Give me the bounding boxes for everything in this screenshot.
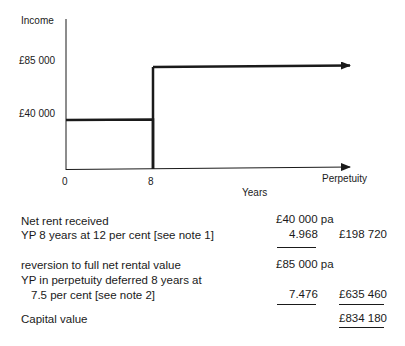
x-axis-label: Years	[242, 187, 267, 198]
y-axis-label: Income	[21, 15, 54, 26]
x-axis	[66, 167, 350, 170]
row-label: Net rent received	[21, 215, 109, 227]
row-label: Capital value	[21, 313, 87, 325]
income-85000-segment	[153, 66, 350, 68]
row-value: £40 000 pa	[276, 213, 334, 225]
row-label: YP 8 years at 12 per cent [see note 1]	[21, 229, 214, 241]
x-tick-8: 8	[148, 176, 154, 187]
row-label: YP in perpetuity deferred 8 years at	[21, 274, 202, 286]
row-label: 7.5 per cent [see note 2]	[31, 289, 155, 301]
income-40000-segment	[66, 120, 153, 170]
row-total: £635 460	[339, 288, 387, 300]
row-value: 7.476	[289, 288, 318, 300]
income-step-chart	[0, 0, 405, 200]
row-value: 4.968	[289, 228, 318, 240]
row-label: reversion to full net rental value	[21, 259, 181, 271]
x-tick-perpetuity: Perpetuity	[322, 173, 367, 184]
y-tick-40000: £40 000	[19, 108, 55, 119]
row-value: £85 000 pa	[276, 258, 334, 270]
total-rule	[339, 327, 384, 328]
y-tick-85000: £85 000	[19, 55, 55, 66]
x-tick-0: 0	[62, 176, 68, 187]
subtotal-rule	[277, 304, 316, 305]
capital-value-total: £834 180	[339, 312, 387, 324]
subtotal-rule	[277, 247, 316, 248]
row-total: £198 720	[339, 228, 387, 240]
subtotal-rule	[339, 304, 384, 305]
